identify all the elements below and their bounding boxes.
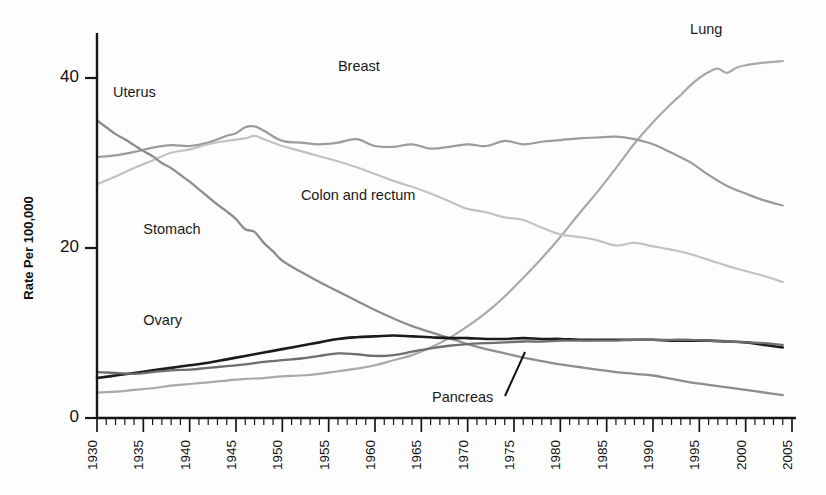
series-label-ovary: Ovary xyxy=(143,312,182,328)
x-tick-label-1980: 1980 xyxy=(548,440,563,470)
x-tick-label-1995: 1995 xyxy=(687,440,702,470)
x-tick-label-1985: 1985 xyxy=(595,440,610,470)
x-tick-label-1930: 1930 xyxy=(85,440,100,470)
y-tick-label-20: 20 xyxy=(60,237,79,256)
chart-container: 1930193519401945195019551960196519701975… xyxy=(0,0,826,495)
series-label-breast: Breast xyxy=(338,58,380,74)
x-tick-label-1965: 1965 xyxy=(409,440,424,470)
y-tick-label-0: 0 xyxy=(70,407,79,426)
x-tick-label-2005: 2005 xyxy=(780,440,795,470)
series-label-stomach: Stomach xyxy=(143,221,200,237)
x-tick-label-1960: 1960 xyxy=(363,440,378,470)
x-tick-label-1970: 1970 xyxy=(456,440,471,470)
x-tick-label-1935: 1935 xyxy=(131,440,146,470)
chart-background xyxy=(0,0,826,495)
cancer-death-rate-line-chart: 1930193519401945195019551960196519701975… xyxy=(0,0,826,495)
x-tick-label-1975: 1975 xyxy=(502,440,517,470)
y-tick-label-40: 40 xyxy=(60,67,79,86)
x-tick-label-1955: 1955 xyxy=(317,440,332,470)
series-label-colon-and-rectum: Colon and rectum xyxy=(301,187,415,203)
series-label-pancreas: Pancreas xyxy=(432,389,493,405)
y-axis-title: Rate Per 100,000 xyxy=(21,196,36,299)
x-tick-label-1950: 1950 xyxy=(270,440,285,470)
series-label-uterus: Uterus xyxy=(113,84,156,100)
x-tick-label-1990: 1990 xyxy=(641,440,656,470)
x-tick-label-2000: 2000 xyxy=(734,440,749,470)
x-tick-label-1945: 1945 xyxy=(224,440,239,470)
series-label-lung: Lung xyxy=(690,21,722,37)
x-tick-label-1940: 1940 xyxy=(178,440,193,470)
